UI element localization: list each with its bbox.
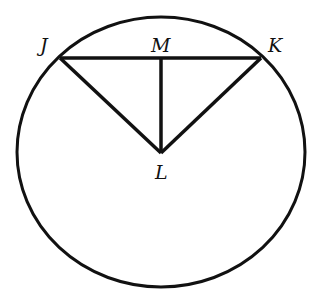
segment-jl xyxy=(60,58,161,153)
label-l: L xyxy=(154,161,168,183)
geometry-diagram: J M K L xyxy=(0,0,317,299)
label-j: J xyxy=(36,34,49,56)
segment-kl xyxy=(161,58,261,153)
label-k: K xyxy=(267,34,284,56)
label-m: M xyxy=(150,34,171,56)
